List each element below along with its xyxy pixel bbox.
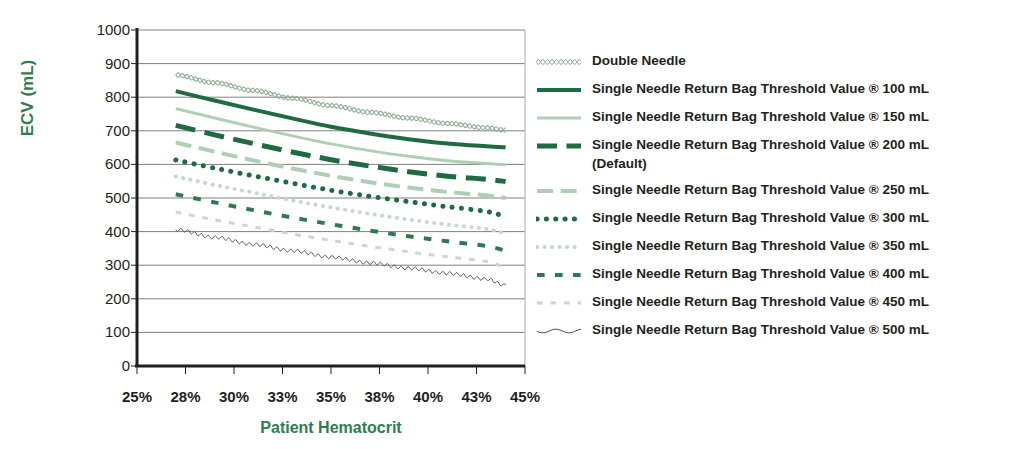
legend-item[interactable]: Single Needle Return Bag Threshold Value… <box>536 209 1006 229</box>
legend-item-label: Single Needle Return Bag Threshold Value… <box>592 265 929 284</box>
legend-item-label: Double Needle <box>592 52 686 71</box>
legend-line-swatch <box>536 237 582 255</box>
legend-item[interactable]: Single Needle Return Bag Threshold Value… <box>536 237 1006 257</box>
legend-item[interactable]: Double Needle <box>536 52 1006 72</box>
legend-item-label: Single Needle Return Bag Threshold Value… <box>592 321 929 340</box>
series-line <box>176 160 506 217</box>
legend-item-label: Single Needle Return Bag Threshold Value… <box>592 108 929 127</box>
legend-line-swatch <box>536 136 582 154</box>
legend-item[interactable]: Single Needle Return Bag Threshold Value… <box>536 136 1006 173</box>
legend-item[interactable]: Single Needle Return Bag Threshold Value… <box>536 293 1006 313</box>
chart-legend: Double NeedleSingle Needle Return Bag Th… <box>536 52 1006 349</box>
chart-figure: ECV (mL) Patient Hematocrit 010020030040… <box>0 0 1013 449</box>
legend-line-swatch <box>536 181 582 199</box>
series-line <box>176 109 506 165</box>
legend-line-swatch <box>536 52 582 70</box>
legend-item[interactable]: Single Needle Return Bag Threshold Value… <box>536 80 1006 100</box>
legend-item-label: Single Needle Return Bag Threshold Value… <box>592 136 929 173</box>
legend-line-swatch <box>536 80 582 98</box>
legend-item[interactable]: Single Needle Return Bag Threshold Value… <box>536 108 1006 128</box>
legend-item[interactable]: Single Needle Return Bag Threshold Value… <box>536 265 1006 285</box>
legend-item-label: Single Needle Return Bag Threshold Value… <box>592 209 929 228</box>
legend-line-swatch <box>536 209 582 227</box>
legend-item-label: Single Needle Return Bag Threshold Value… <box>592 80 929 99</box>
legend-item-label: Single Needle Return Bag Threshold Value… <box>592 293 929 312</box>
legend-line-swatch <box>536 108 582 126</box>
legend-item-label: Single Needle Return Bag Threshold Value… <box>592 181 929 200</box>
legend-line-swatch <box>536 321 582 339</box>
legend-line-swatch <box>536 293 582 311</box>
legend-item[interactable]: Single Needle Return Bag Threshold Value… <box>536 181 1006 201</box>
legend-item[interactable]: Single Needle Return Bag Threshold Value… <box>536 321 1006 341</box>
legend-line-swatch <box>536 265 582 283</box>
legend-item-label: Single Needle Return Bag Threshold Value… <box>592 237 929 256</box>
